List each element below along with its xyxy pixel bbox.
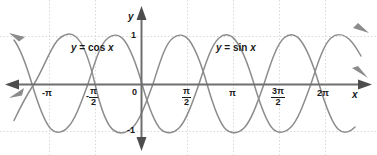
x-tick-neg-pi-label: -π	[42, 89, 52, 98]
x-axis-left-arrowhead	[5, 80, 19, 90]
fraction-numerator: 3π	[271, 87, 285, 96]
sin-left-arrowhead	[9, 88, 24, 98]
cosine-label-var: x	[108, 42, 114, 53]
y-tick-neg-one-label: -1	[127, 126, 135, 135]
cosine-curve	[14, 34, 355, 133]
y-axis-label: y	[128, 12, 134, 22]
sine-label-body: = sin	[222, 42, 251, 53]
graph-canvas	[0, 0, 377, 155]
cos-right-arrowhead	[352, 66, 368, 78]
x-tick-pi-label: π	[229, 89, 236, 98]
cos-left-arrowhead	[9, 33, 25, 42]
fraction-denominator: 2	[182, 98, 191, 107]
y-tick-one-label: 1	[131, 31, 136, 40]
x-tick-two-pi-label: 2π	[317, 89, 329, 98]
y-axis-top-arrowhead	[137, 6, 147, 20]
cosine-label-body: = cos	[77, 42, 108, 53]
fraction-numerator: π	[182, 87, 191, 96]
sine-label-var: x	[250, 42, 256, 53]
x-tick-three-pi-over-2-label: 3π2	[271, 87, 285, 107]
x-axis-label: x	[352, 90, 358, 100]
sin-right-arrowhead	[353, 23, 369, 33]
x-tick-neg-pi-over-2-label: -π2	[86, 87, 98, 107]
fraction-denominator: 2	[271, 98, 285, 107]
sine-curve-label: y = sin x	[216, 43, 256, 53]
fraction-numerator: π	[89, 87, 98, 96]
fraction-pi-over-2: π2	[182, 87, 191, 107]
fraction-denominator: 2	[89, 98, 98, 107]
x-tick-pi-over-2-label: π2	[182, 87, 191, 107]
y-axis	[137, 6, 147, 151]
cosine-curve-label: y = cos x	[71, 43, 114, 53]
trig-graph-figure: y x 0 1 -1 -π -π2 π2 π 3π2 2π y = cos x …	[0, 0, 377, 155]
origin-label: 0	[132, 88, 137, 97]
x-axis-right-arrowhead	[358, 80, 372, 90]
y-axis-bottom-arrowhead	[137, 137, 147, 151]
fraction-three-pi-over-2: 3π2	[271, 87, 285, 107]
fraction-neg-pi-over-2: π2	[89, 87, 98, 107]
